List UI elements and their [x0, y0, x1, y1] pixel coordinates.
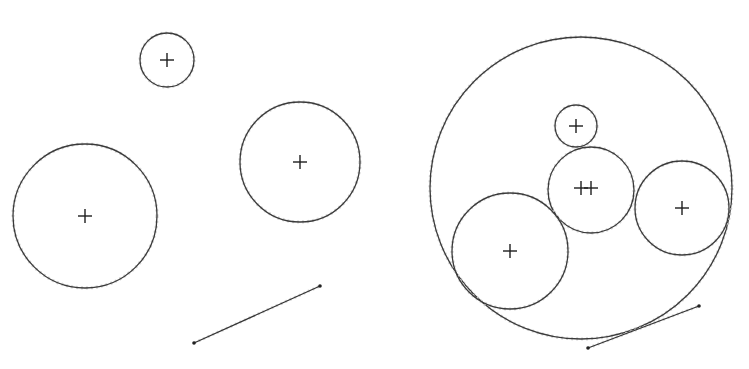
- segment-line: [194, 286, 320, 343]
- diagram-canvas: [0, 0, 749, 369]
- circle-lower-left-inner: [452, 193, 568, 309]
- circle-large-left: [13, 144, 157, 288]
- circle-right-inner: [635, 161, 729, 255]
- right-panel: [430, 37, 732, 350]
- left-panel: [13, 33, 360, 345]
- circle-middle-inner: [548, 147, 634, 233]
- crosshair-icon: [584, 181, 598, 195]
- circle-small-inner: [555, 105, 597, 147]
- endpoint-dot-icon: [318, 284, 322, 288]
- crosshair-icon: [160, 53, 174, 67]
- endpoint-dot-icon: [192, 341, 196, 345]
- crosshair-icon: [503, 244, 517, 258]
- crosshair-icon: [569, 119, 583, 133]
- segment-line: [588, 306, 699, 348]
- segment: [192, 284, 322, 345]
- endpoint-dot-icon: [586, 346, 590, 350]
- tangent-segment: [586, 304, 701, 350]
- endpoint-dot-icon: [697, 304, 701, 308]
- crosshair-icon: [293, 155, 307, 169]
- crosshair-icon: [675, 201, 689, 215]
- circle-medium-right: [240, 102, 360, 222]
- circle-small-top: [140, 33, 194, 87]
- crosshair-icon: [78, 209, 92, 223]
